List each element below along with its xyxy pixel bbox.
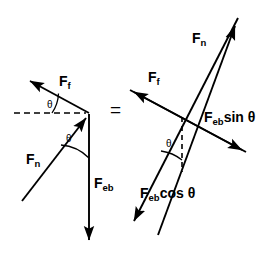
eb-sin-trig: sin θ [224,109,256,125]
equals-sign: = [110,100,121,119]
elastic-band-subscript-left: eb [103,182,114,193]
normal-force-subscript-right: n [201,37,207,48]
vector-canvas [0,0,271,271]
elastic-band-symbol-left: F [94,175,103,191]
eb-cos-label: Febcos θ [140,186,195,200]
normal-force-vector-arrow-right [158,26,235,235]
eb-sin-label: Febsin θ [204,110,255,124]
friction-subscript-right: f [157,76,160,87]
eb-sin-symbol: F [204,109,213,125]
force-diagram-figure: = Ff θ θ Fn Feb Fn Ff Febsin θ θ Febcos … [0,0,271,271]
angle-label-right: θ [166,139,172,149]
angle-label-top-left: θ [47,100,53,110]
friction-symbol-right: F [148,69,157,85]
eb-cos-trig: cos θ [160,185,196,201]
elastic-band-label-left: Feb [94,176,114,190]
friction-label-right: Ff [148,70,160,84]
normal-force-symbol-right: F [192,30,201,46]
angle-label-lower-left: θ [66,134,72,144]
angle-arc-right [161,151,182,160]
angle-arc-lower-left [61,145,89,158]
eb-sin-subscript: eb [213,116,224,127]
friction-subscript-left: f [68,80,71,91]
eb-cos-symbol: F [140,185,149,201]
right-diagram-group [130,18,246,235]
normal-force-label-right: Fn [192,31,206,45]
normal-force-symbol-left: F [26,151,35,167]
friction-label-left: Ff [59,74,71,88]
friction-symbol-left: F [59,73,68,89]
normal-force-subscript-left: n [35,158,41,169]
eb-cos-subscript: eb [149,192,160,203]
normal-force-label-left: Fn [26,152,40,166]
